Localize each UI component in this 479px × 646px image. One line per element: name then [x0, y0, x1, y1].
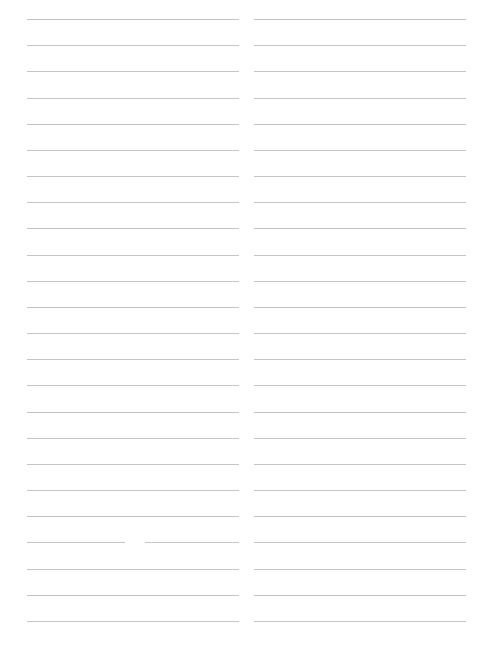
ruled-line — [254, 621, 466, 622]
ruled-line — [27, 595, 239, 596]
ruled-line — [27, 464, 239, 465]
ruled-line — [254, 307, 466, 308]
ruled-line — [254, 202, 466, 203]
ruled-line — [254, 569, 466, 570]
lined-page — [0, 0, 479, 646]
ruled-line — [254, 45, 466, 46]
ruled-line — [27, 516, 239, 517]
ruled-line — [27, 307, 239, 308]
ruled-line — [27, 228, 239, 229]
ruled-line — [27, 438, 239, 439]
ruled-line — [254, 464, 466, 465]
ruled-line — [27, 45, 239, 46]
ruled-line — [254, 595, 466, 596]
ruled-line — [254, 19, 466, 20]
ruled-line — [254, 228, 466, 229]
ruled-line — [254, 281, 466, 282]
ruled-line — [254, 150, 466, 151]
ruled-line — [27, 71, 239, 72]
right-column — [254, 0, 466, 646]
ruled-line — [27, 255, 239, 256]
ruled-line — [27, 281, 239, 282]
ruled-line — [254, 71, 466, 72]
ruled-line — [27, 542, 239, 543]
ruled-line — [254, 490, 466, 491]
ruled-line — [27, 19, 239, 20]
ruled-line — [27, 359, 239, 360]
ruled-line — [27, 333, 239, 334]
ruled-line — [27, 176, 239, 177]
ruled-line — [254, 255, 466, 256]
ruled-line — [254, 98, 466, 99]
ruled-line — [254, 412, 466, 413]
ruled-line — [27, 98, 239, 99]
ruled-line — [254, 516, 466, 517]
ruled-line — [254, 176, 466, 177]
ruled-line — [27, 621, 239, 622]
line-gap — [125, 541, 145, 544]
ruled-line — [27, 124, 239, 125]
ruled-line — [27, 385, 239, 386]
ruled-line — [27, 150, 239, 151]
ruled-line — [27, 202, 239, 203]
ruled-line — [27, 412, 239, 413]
ruled-line — [254, 438, 466, 439]
ruled-line — [254, 359, 466, 360]
ruled-line — [254, 542, 466, 543]
left-column — [27, 0, 239, 646]
ruled-line — [254, 124, 466, 125]
ruled-line — [27, 569, 239, 570]
ruled-line — [254, 385, 466, 386]
ruled-line — [254, 333, 466, 334]
ruled-line — [27, 490, 239, 491]
